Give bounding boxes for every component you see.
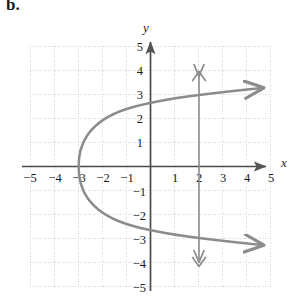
y-tick-labels: 5 4 3 2 1 −1 −2 −3 −4 −5	[133, 40, 147, 295]
axes	[22, 42, 266, 291]
y-tick-3: 3	[137, 88, 143, 102]
x-tick--4: −4	[48, 171, 62, 185]
parabola-upper-branch	[79, 88, 262, 167]
y-axis-label: y	[141, 20, 149, 35]
part-label: b.	[6, 0, 20, 15]
x-tick--2: −2	[96, 171, 109, 185]
y-tick--3: −3	[133, 233, 146, 247]
figure-panel: b.	[0, 0, 304, 301]
x-tick-1: 1	[172, 171, 178, 185]
y-tick-5: 5	[137, 40, 143, 54]
y-tick--1: −1	[133, 185, 146, 199]
x-axis-label: x	[280, 155, 287, 170]
y-tick-2: 2	[137, 112, 143, 126]
x-tick-3: 3	[220, 171, 226, 185]
coordinate-plane-chart: y x −5 −4 −3 −2 −1 1 2 3 4 5 5 4 3 2 1 −…	[0, 0, 304, 301]
y-tick-4: 4	[137, 64, 144, 78]
y-tick--4: −4	[133, 257, 147, 271]
x-tick--1: −1	[120, 171, 133, 185]
x-tick-labels: −5 −4 −3 −2 −1 1 2 3 4 5	[23, 171, 274, 185]
y-tick-1: 1	[137, 136, 143, 150]
x-tick--5: −5	[23, 171, 36, 185]
y-tick--5: −5	[133, 281, 146, 295]
y-tick--2: −2	[133, 209, 146, 223]
x-tick-4: 4	[244, 171, 251, 185]
x-tick-5: 5	[268, 171, 274, 185]
